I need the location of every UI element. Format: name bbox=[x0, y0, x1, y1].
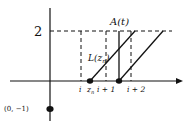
tick-label-i-plus-1: i + 1 bbox=[97, 85, 115, 94]
tick-label-zn: zn bbox=[86, 85, 94, 95]
point-0-minus-1-label: (0, −1) bbox=[4, 105, 29, 113]
point-0-minus-1 bbox=[46, 106, 53, 112]
a-t-label: A(t) bbox=[109, 16, 129, 27]
point-a-t-base bbox=[116, 78, 122, 84]
tick-label-zn-sub: n bbox=[91, 89, 94, 95]
tick-label-i-plus-2: i + 2 bbox=[127, 85, 145, 94]
diagonal-line-second bbox=[119, 31, 163, 81]
diagram-canvas: 2 A(t) L(zn) i zn i + 1 i + 2 (0, −1) bbox=[0, 0, 191, 127]
l-zn-label: L(zn) bbox=[87, 53, 110, 64]
l-zn-label-main: L(z bbox=[87, 53, 102, 63]
l-zn-label-close: ) bbox=[105, 53, 110, 63]
level-2-label: 2 bbox=[34, 24, 42, 39]
x-axis-arrow-icon bbox=[176, 78, 183, 84]
tick-label-i: i bbox=[79, 85, 82, 94]
point-zn bbox=[87, 78, 93, 84]
